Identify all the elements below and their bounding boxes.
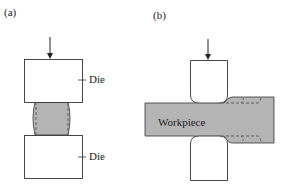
- forging-diagram: [0, 0, 291, 194]
- panel-b: [145, 39, 274, 181]
- lower-die-a: [25, 136, 83, 179]
- panel-b-label: (b): [153, 9, 166, 21]
- panel-a: [25, 37, 87, 179]
- panel-a-label: (a): [4, 6, 16, 18]
- lower-die-b: [191, 136, 228, 181]
- workpiece-label: Workpiece: [158, 116, 205, 128]
- upper-die-b: [191, 61, 228, 104]
- force-arrow-a-head: [47, 53, 53, 59]
- lower-die-label: Die: [89, 150, 105, 162]
- upper-die-a: [25, 60, 83, 103]
- force-arrow-b-head: [205, 54, 211, 60]
- upper-die-label: Die: [89, 73, 105, 85]
- workpiece-a: [33, 102, 70, 135]
